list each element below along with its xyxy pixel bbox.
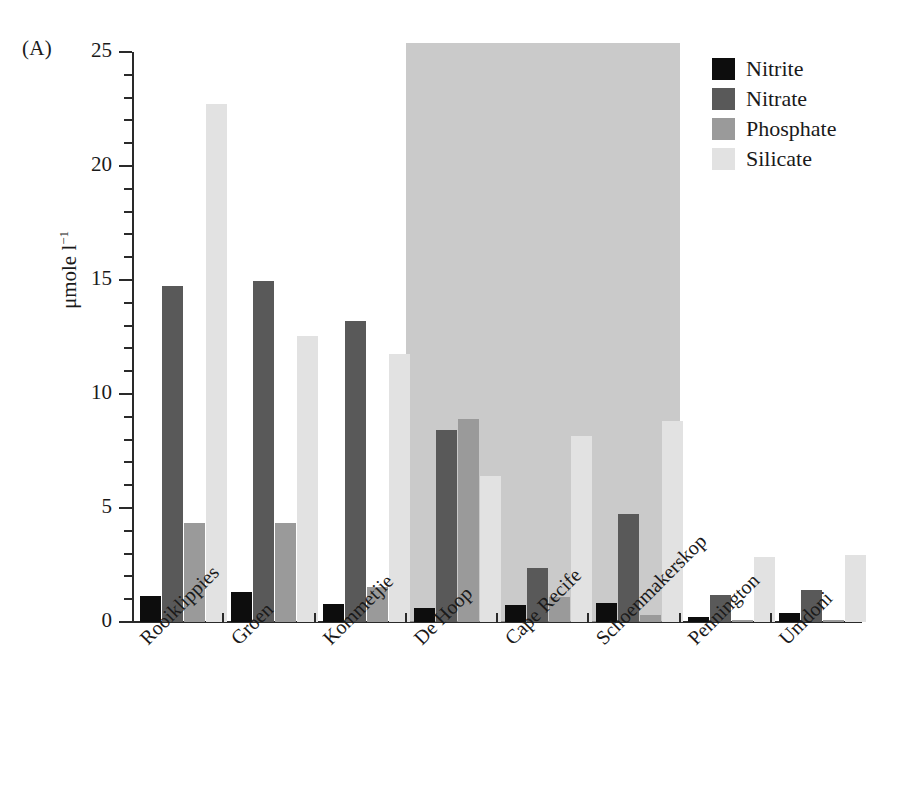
y-axis-minor-tick bbox=[124, 142, 132, 144]
legend-swatch-icon bbox=[712, 88, 735, 110]
y-axis-tick-label: 10 bbox=[72, 382, 112, 403]
legend-item-label: Nitrate bbox=[746, 88, 807, 110]
y-axis-minor-tick bbox=[124, 74, 132, 76]
bar bbox=[275, 523, 296, 622]
bar bbox=[480, 476, 501, 622]
y-axis-minor-tick bbox=[124, 598, 132, 600]
x-axis-group-separator bbox=[587, 613, 589, 623]
legend-item: Nitrite bbox=[712, 54, 836, 84]
y-axis-major-tick bbox=[119, 507, 132, 509]
legend-item: Phosphate bbox=[712, 114, 836, 144]
y-axis-tick-label: 0 bbox=[72, 610, 112, 631]
legend-item: Nitrate bbox=[712, 84, 836, 114]
y-axis-minor-tick bbox=[124, 530, 132, 532]
x-axis-group-separator bbox=[496, 613, 498, 623]
y-axis-minor-tick bbox=[124, 325, 132, 327]
y-axis-minor-tick bbox=[124, 302, 132, 304]
y-axis-minor-tick bbox=[124, 575, 132, 577]
bar bbox=[662, 421, 683, 622]
figure-panel-a: (A) μmole l−1 0510152025 RooiklippiesGro… bbox=[0, 0, 898, 811]
y-axis-tick-label: 15 bbox=[72, 268, 112, 289]
y-axis-tick-label: 5 bbox=[72, 496, 112, 517]
legend: NitriteNitratePhosphateSilicate bbox=[712, 54, 836, 174]
bar bbox=[640, 615, 661, 622]
legend-swatch-icon bbox=[712, 58, 735, 80]
y-axis-minor-tick bbox=[124, 370, 132, 372]
y-axis-major-tick bbox=[119, 51, 132, 53]
legend-swatch-icon bbox=[712, 118, 735, 140]
y-axis-major-tick bbox=[119, 621, 132, 623]
y-axis-minor-tick bbox=[124, 439, 132, 441]
bar bbox=[823, 620, 844, 622]
x-axis-group-separator bbox=[405, 613, 407, 623]
y-axis-minor-tick bbox=[124, 188, 132, 190]
y-axis-tick-labels: 0510152025 bbox=[60, 0, 112, 811]
y-axis-minor-tick bbox=[124, 119, 132, 121]
x-axis-group-separator bbox=[222, 613, 224, 623]
y-axis-major-tick bbox=[119, 165, 132, 167]
y-axis-minor-tick bbox=[124, 233, 132, 235]
bar bbox=[253, 281, 274, 622]
bar bbox=[845, 555, 866, 622]
panel-label: (A) bbox=[22, 36, 52, 61]
x-axis-group-separator bbox=[679, 613, 681, 623]
bar bbox=[345, 321, 366, 622]
x-axis-group-separator bbox=[770, 613, 772, 623]
y-axis-tick-label: 25 bbox=[72, 40, 112, 61]
y-axis-major-tick bbox=[119, 393, 132, 395]
y-axis-minor-tick bbox=[124, 211, 132, 213]
legend-item-label: Silicate bbox=[746, 148, 812, 170]
legend-item: Silicate bbox=[712, 144, 836, 174]
legend-item-label: Nitrite bbox=[746, 58, 803, 80]
bar bbox=[206, 104, 227, 622]
legend-item-label: Phosphate bbox=[746, 118, 836, 140]
y-axis-minor-tick bbox=[124, 461, 132, 463]
y-axis-minor-tick bbox=[124, 416, 132, 418]
y-axis-tick-label: 20 bbox=[72, 154, 112, 175]
bar bbox=[571, 436, 592, 622]
y-axis-minor-tick bbox=[124, 97, 132, 99]
bar bbox=[162, 286, 183, 622]
y-axis-minor-tick bbox=[124, 256, 132, 258]
y-axis-minor-tick bbox=[124, 347, 132, 349]
legend-swatch-icon bbox=[712, 148, 735, 170]
bar bbox=[297, 336, 318, 622]
y-axis-major-tick bbox=[119, 279, 132, 281]
y-axis-minor-tick bbox=[124, 484, 132, 486]
bar bbox=[732, 620, 753, 622]
y-axis-minor-tick bbox=[124, 553, 132, 555]
x-axis-group-separator bbox=[314, 613, 316, 623]
